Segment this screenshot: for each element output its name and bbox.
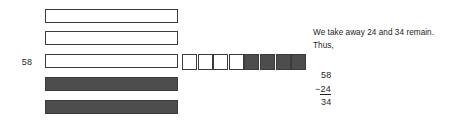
subtraction-base-ten-diagram: 58 We take away 24 and 34 remain. Thus, … (0, 0, 469, 124)
unit-square-4 (229, 54, 244, 70)
unit-square-8 (291, 54, 306, 70)
ten-rod-1 (45, 9, 178, 23)
total-quantity-label: 58 (14, 57, 40, 67)
explanation-text: We take away 24 and 34 remain. Thus, (313, 26, 465, 52)
explanation-line-2: Thus, (313, 39, 465, 52)
ten-rod-5 (45, 100, 178, 114)
unit-square-3 (213, 54, 228, 70)
unit-square-5 (244, 54, 259, 70)
unit-squares-group (182, 54, 307, 70)
ten-rod-3 (45, 54, 178, 68)
difference-value: 34 (313, 96, 355, 110)
unit-square-1 (182, 54, 197, 70)
explanation-line-1: We take away 24 and 34 remain. (313, 26, 465, 39)
minuend-value: 58 (313, 69, 355, 83)
ten-rod-2 (45, 31, 178, 45)
ten-rod-4 (45, 77, 178, 91)
unit-square-6 (260, 54, 275, 70)
unit-square-7 (276, 54, 291, 70)
vertical-subtraction: 58 −24 34 (313, 69, 355, 110)
subtrahend-value: 24 (320, 84, 330, 96)
subtrahend-row: −24 (313, 83, 355, 97)
unit-square-2 (198, 54, 213, 70)
